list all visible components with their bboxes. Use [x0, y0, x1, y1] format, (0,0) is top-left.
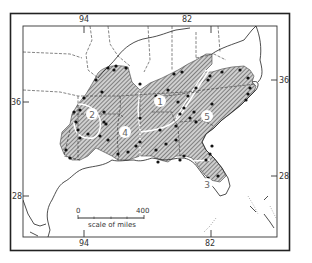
- svg-text:1: 1: [157, 97, 163, 107]
- svg-text:3: 3: [204, 180, 210, 190]
- longitude-label-top-82: 82: [182, 15, 192, 24]
- region-marker-5: 5: [201, 110, 213, 122]
- longitude-label-top-94: 94: [79, 15, 89, 24]
- svg-text:2: 2: [89, 110, 95, 120]
- scale-caption: scale of miles: [88, 221, 136, 229]
- region-marker-3: 3: [201, 178, 213, 190]
- svg-text:5: 5: [204, 112, 210, 122]
- region-marker-2: 2: [86, 108, 98, 120]
- range-map: 1 2 3 4 5 0 400 scale of miles: [0, 0, 312, 263]
- bahamas-dotted: [248, 196, 276, 218]
- keys-dotted: [204, 218, 216, 232]
- region-marker-1: 1: [154, 95, 166, 107]
- latitude-label-left-28: 28: [12, 192, 22, 201]
- longitude-label-bottom-82: 82: [205, 239, 215, 248]
- longitude-label-bottom-94: 94: [79, 239, 89, 248]
- latitude-label-right-36: 36: [279, 76, 289, 85]
- svg-text:4: 4: [122, 128, 128, 138]
- latitude-label-left-36: 36: [11, 98, 21, 107]
- scale-end-label: 400: [136, 207, 149, 215]
- scale-bar: [78, 215, 144, 219]
- scale-start-label: 0: [76, 207, 80, 215]
- latitude-label-right-28: 28: [279, 172, 289, 181]
- region-marker-4: 4: [119, 126, 131, 138]
